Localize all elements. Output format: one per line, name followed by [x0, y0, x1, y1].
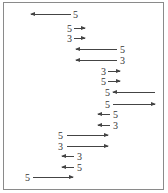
arrow-row: 3 — [0, 56, 168, 66]
row-label: 5 — [73, 10, 78, 20]
row-label: 3 — [113, 121, 118, 131]
arrow-row: 3 — [0, 142, 168, 152]
arrow-row: 5 — [0, 10, 168, 20]
row-label: 5 — [120, 45, 125, 55]
row-label: 3 — [120, 56, 125, 66]
arrow-left-icon — [98, 125, 110, 126]
arrow-right-icon — [74, 38, 85, 39]
arrow-left-icon — [113, 92, 155, 93]
arrow-right-icon — [67, 146, 108, 147]
arrow-row: 3 — [0, 152, 168, 162]
arrow-row: 5 — [0, 77, 168, 87]
arrow-row: 3 — [0, 67, 168, 77]
row-label: 5 — [113, 110, 118, 120]
arrow-row: 5 — [0, 24, 168, 34]
row-label: 5 — [58, 131, 63, 141]
arrow-row: 5 — [0, 110, 168, 120]
arrow-left-icon — [31, 14, 71, 15]
row-label: 3 — [77, 152, 82, 162]
row-label: 3 — [67, 34, 72, 44]
arrow-right-icon — [33, 177, 73, 178]
arrow-left-icon — [76, 60, 117, 61]
arrow-left-icon — [76, 49, 117, 50]
arrow-row: 5 — [0, 88, 168, 98]
arrow-row: 5 — [0, 131, 168, 141]
row-label: 5 — [105, 100, 110, 110]
arrow-row: 5 — [0, 100, 168, 110]
arrow-left-icon — [62, 156, 74, 157]
arrow-right-icon — [108, 81, 120, 82]
arrow-row: 3 — [0, 34, 168, 44]
arrow-left-icon — [98, 114, 110, 115]
arrow-row: 5 — [0, 173, 168, 183]
row-label: 5 — [105, 88, 110, 98]
row-label: 5 — [25, 173, 30, 183]
arrow-right-icon — [67, 135, 108, 136]
arrow-row: 3 — [0, 121, 168, 131]
arrow-right-icon — [113, 104, 155, 105]
arrow-left-icon — [62, 167, 74, 168]
arrow-right-icon — [74, 28, 85, 29]
arrow-row: 5 — [0, 45, 168, 55]
row-label: 5 — [77, 163, 82, 173]
arrow-right-icon — [108, 71, 120, 72]
row-label: 5 — [101, 77, 106, 87]
row-label: 3 — [58, 142, 63, 152]
